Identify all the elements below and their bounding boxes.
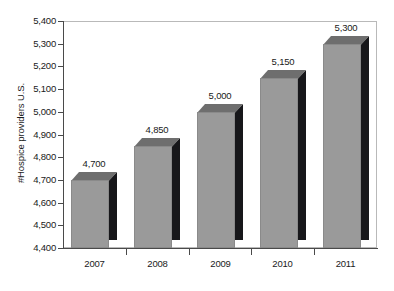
- x-axis-tick-mark: [189, 249, 190, 255]
- bar-side-face: [361, 36, 369, 240]
- bar-front-face: [71, 180, 109, 248]
- bar-chart: #Hospice providers U.S. 5,4005,3005,2005…: [0, 0, 394, 291]
- bar-front-face: [197, 112, 235, 248]
- bar-side-face: [172, 138, 180, 240]
- y-axis-tick-mark: [58, 203, 64, 204]
- y-axis-tick-mark: [58, 44, 64, 45]
- y-axis-tick-label: 5,300: [14, 39, 56, 49]
- y-axis-tick-mark: [58, 248, 64, 249]
- y-axis-tick-mark: [58, 135, 64, 136]
- y-axis-tick-mark: [58, 112, 64, 113]
- y-axis-tick-mark: [58, 89, 64, 90]
- bar-front-face: [323, 44, 361, 248]
- y-axis-tick-label: 4,500: [14, 220, 56, 230]
- x-axis-tick-label: 2009: [189, 258, 252, 269]
- y-axis-tick-label: 4,800: [14, 152, 56, 162]
- bar-side-face: [235, 104, 243, 240]
- y-axis-tick-mark: [58, 225, 64, 226]
- bar-value-label: 5,300: [313, 22, 379, 33]
- x-axis-tick-label: 2011: [314, 258, 377, 269]
- x-axis-tick-mark: [251, 249, 252, 255]
- x-axis-tick-mark: [314, 249, 315, 255]
- x-axis-line: [63, 248, 378, 249]
- y-axis-tick-label: 4,900: [14, 130, 56, 140]
- y-axis-tick-mark: [58, 180, 64, 181]
- y-axis-tick-mark: [58, 21, 64, 22]
- bar-side-face: [109, 172, 117, 240]
- y-axis-tick-label: 5,100: [14, 84, 56, 94]
- x-axis-tick-mark: [126, 249, 127, 255]
- bar-value-label: 5,150: [250, 56, 316, 67]
- y-axis-tick-label: 5,000: [14, 107, 56, 117]
- bar-side-face: [298, 70, 306, 240]
- y-axis-tick-label: 4,700: [14, 175, 56, 185]
- y-axis-tick-label: 5,200: [14, 61, 56, 71]
- bar-value-label: 4,700: [61, 158, 127, 169]
- y-axis-tick-label: 5,400: [14, 16, 56, 26]
- x-axis-tick-label: 2007: [63, 258, 126, 269]
- bar-value-label: 4,850: [124, 124, 190, 135]
- y-axis-tick-labels: 5,4005,3005,2005,1005,0004,9004,8004,700…: [14, 0, 56, 291]
- bar-front-face: [134, 146, 172, 248]
- x-axis-tick-label: 2008: [126, 258, 189, 269]
- y-axis-tick-label: 4,400: [14, 243, 56, 253]
- y-axis-tick-label: 4,600: [14, 198, 56, 208]
- x-axis-tick-label: 2010: [251, 258, 314, 269]
- y-axis-tick-mark: [58, 66, 64, 67]
- bar-front-face: [260, 78, 298, 248]
- bar-value-label: 5,000: [187, 90, 253, 101]
